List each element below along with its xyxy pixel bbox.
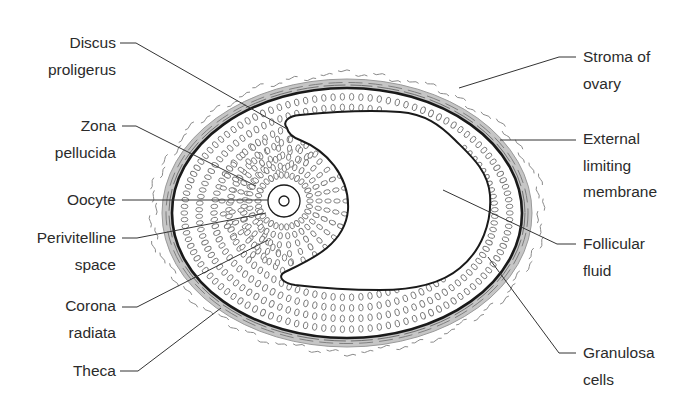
label-line: cells <box>583 367 655 394</box>
label-line: fluid <box>583 258 645 285</box>
label-line: Perivitelline <box>37 225 116 252</box>
label-line: Stroma of <box>583 44 650 71</box>
oocyte <box>268 185 300 217</box>
label-line: ovary <box>583 71 650 98</box>
label-perivitelline-space: Perivitellinespace <box>37 225 116 278</box>
label-line: Follicular <box>583 231 645 258</box>
label-line: space <box>37 252 116 279</box>
leader-theca <box>120 308 221 371</box>
label-stroma-of-ovary: Stroma ofovary <box>583 44 650 97</box>
label-oocyte: Oocyte <box>67 187 116 214</box>
label-line: limiting <box>583 153 657 180</box>
label-line: Oocyte <box>67 187 116 214</box>
label-line: proligerus <box>48 57 116 84</box>
label-line: External <box>583 126 657 153</box>
label-line: membrane <box>583 179 657 206</box>
label-theca: Theca <box>73 358 116 385</box>
label-line: Zona <box>55 113 116 140</box>
label-follicular-fluid: Follicularfluid <box>583 231 645 284</box>
label-line: radiata <box>65 320 116 347</box>
label-granulosa-cells: Granulosacells <box>583 340 655 393</box>
label-line: Corona <box>65 293 116 320</box>
leader-stroma-of-ovary <box>459 57 576 88</box>
label-line: Discus <box>48 30 116 57</box>
label-line: Theca <box>73 358 116 385</box>
label-discus-proligerus: Discusproligerus <box>48 30 116 83</box>
label-corona-radiata: Coronaradiata <box>65 293 116 346</box>
label-line: pellucida <box>55 140 116 167</box>
label-line: Granulosa <box>583 340 655 367</box>
label-zona-pellucida: Zonapellucida <box>55 113 116 166</box>
label-external-limiting-membrane: Externallimitingmembrane <box>583 126 657 206</box>
